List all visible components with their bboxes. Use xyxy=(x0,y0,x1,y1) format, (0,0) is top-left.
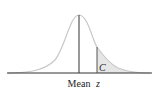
mean-label: Mean xyxy=(68,78,91,89)
z-label: z xyxy=(95,78,100,89)
area-label: C xyxy=(99,62,106,73)
normal-curve-diagram: C Mean z xyxy=(0,0,156,93)
